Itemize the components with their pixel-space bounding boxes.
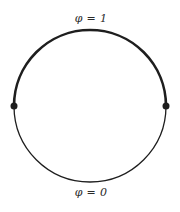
bottom-label-phi-equals-0: φ = 0 (75, 186, 107, 199)
left-junction-point (11, 103, 18, 110)
upper-arc-phi-1 (14, 30, 166, 106)
circle-diagram (0, 0, 180, 212)
right-junction-point (163, 103, 170, 110)
lower-arc-phi-0 (14, 106, 166, 182)
top-label-phi-equals-1: φ = 1 (75, 12, 107, 25)
